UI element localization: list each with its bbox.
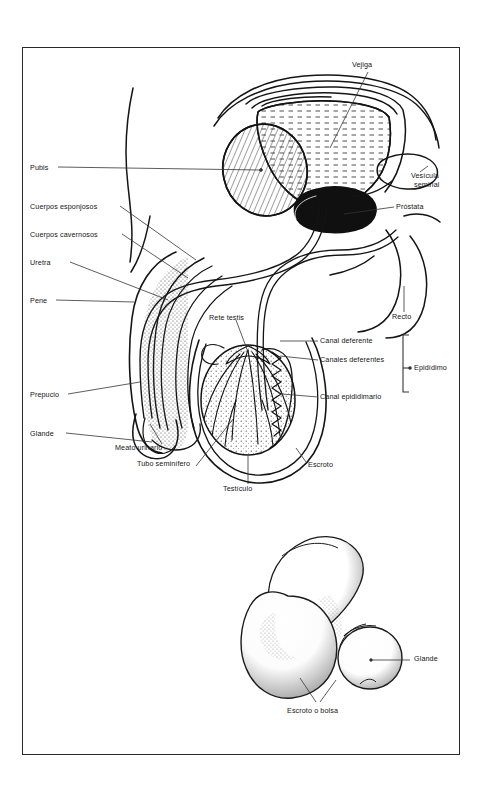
sagittal-panel bbox=[126, 75, 440, 483]
label-testiculo: Testículo bbox=[223, 485, 252, 494]
label-prostata: Próstata bbox=[396, 203, 424, 212]
epididimo-bracket bbox=[403, 335, 411, 392]
label-canales-deferentes: Canales deferentes bbox=[320, 356, 384, 365]
label-glande-externo: Glande bbox=[414, 655, 438, 664]
label-pene: Pene bbox=[30, 297, 47, 306]
rectum-back-wall bbox=[386, 236, 427, 338]
rectovesical-fold bbox=[330, 256, 374, 275]
pelvic-contour bbox=[404, 214, 440, 222]
label-rete-testis: Rete testis bbox=[209, 314, 244, 323]
label-epididimo: Epidídimo bbox=[414, 364, 447, 373]
label-escroto: Escroto bbox=[308, 461, 333, 470]
label-vejiga: Vejiga bbox=[352, 61, 372, 70]
prostate-mass bbox=[294, 187, 376, 233]
label-uretra: Uretra bbox=[30, 259, 51, 268]
label-canal-deferente: Canal deferente bbox=[320, 337, 373, 346]
abdominal-wall-contour bbox=[126, 88, 133, 262]
anatomy-illustration bbox=[0, 0, 483, 795]
label-cuerpos-esponjosos: Cuerpos esponjosos bbox=[30, 203, 97, 212]
label-vesicula-seminal-line2: seminal bbox=[414, 181, 439, 190]
lower-abdomen-contour bbox=[131, 216, 150, 272]
external-panel bbox=[241, 537, 410, 702]
label-escroto-o-bolsa: Escroto o bolsa bbox=[287, 707, 338, 716]
label-recto: Recto bbox=[392, 313, 411, 322]
label-canal-epididimario: Canal epididimario bbox=[320, 393, 381, 402]
label-pubis: Pubis bbox=[30, 164, 48, 173]
label-meato-urinario: Meato urinario bbox=[115, 444, 162, 453]
label-glande: Glande bbox=[30, 430, 54, 439]
label-cuerpos-cavernosos: Cuerpos cavernosos bbox=[30, 231, 98, 240]
label-tubo-seminifero: Tubo seminífero bbox=[137, 460, 190, 469]
label-prepucio: Prepucio bbox=[30, 391, 59, 400]
testis-body bbox=[201, 345, 295, 455]
